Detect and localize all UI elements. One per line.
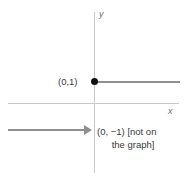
point-label-zero-one: (0,1)	[58, 77, 78, 87]
excluded-point-note-line1: [not on	[127, 126, 156, 137]
excluded-point-label: (0, −1)	[97, 126, 125, 137]
x-axis-label: x	[168, 107, 173, 116]
y-axis-line	[94, 12, 95, 173]
x-axis-line	[8, 103, 179, 104]
filled-point-marker	[91, 78, 98, 85]
arrowhead-icon	[84, 125, 92, 135]
lower-ray	[8, 129, 86, 131]
excluded-point-note: (0, −1) [not on the graph]	[97, 125, 156, 151]
excluded-point-note-line2: the graph]	[97, 138, 156, 151]
upper-ray	[96, 81, 180, 83]
y-axis-label: y	[99, 10, 104, 19]
graph-figure: y x (0,1) (0, −1) [not on the graph]	[0, 0, 188, 177]
